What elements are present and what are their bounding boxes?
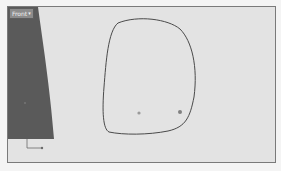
view-label-text: Front [12, 9, 27, 18]
viewport-front[interactable]: Front ▾ [7, 6, 276, 163]
chevron-down-icon: ▾ [28, 9, 31, 18]
axis-widget-icon [27, 139, 41, 148]
curve-point[interactable] [178, 110, 182, 114]
point-marker[interactable] [24, 102, 26, 104]
view-label-dropdown[interactable]: Front ▾ [9, 8, 34, 19]
curve-point[interactable] [137, 111, 140, 114]
axis-origin-icon [41, 147, 43, 149]
closed-curve[interactable] [103, 19, 195, 134]
dark-solid-shape[interactable] [8, 7, 54, 139]
drawing-canvas[interactable] [8, 7, 275, 162]
